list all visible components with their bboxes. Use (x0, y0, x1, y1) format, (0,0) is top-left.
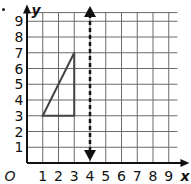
y-tick-label: 8 (15, 29, 24, 45)
x-axis-label: x (179, 168, 190, 184)
y-tick-label: 9 (15, 13, 24, 29)
y-tick-label: 2 (15, 124, 24, 140)
y-tick-label: 6 (15, 61, 24, 77)
y-tick-label: 7 (15, 45, 24, 61)
x-tick-label: 5 (101, 168, 110, 184)
y-axis-arrow-icon (23, 5, 31, 14)
x-tick-label: 8 (149, 168, 158, 184)
grid-lines (27, 13, 177, 163)
origin-label: O (4, 168, 15, 184)
y-axis-label: y (31, 2, 41, 18)
x-tick-label: 7 (133, 168, 142, 184)
x-tick-label: 6 (117, 168, 126, 184)
shapes (43, 6, 96, 161)
y-tick-label: 3 (15, 108, 24, 124)
arrow-up-icon (84, 6, 96, 17)
arrow-down-icon (84, 150, 96, 161)
x-tick-label: 4 (86, 168, 95, 184)
x-tick-label: 9 (164, 168, 173, 184)
coordinate-grid: 123456789123456789Oxy (0, 0, 191, 184)
tick-labels: 123456789123456789Oxy (4, 2, 190, 184)
x-tick-label: 2 (54, 168, 63, 184)
y-tick-label: 1 (15, 139, 24, 155)
y-tick-label: 5 (15, 76, 24, 92)
x-tick-label: 3 (70, 168, 79, 184)
y-tick-label: 4 (15, 92, 24, 108)
x-tick-label: 1 (38, 168, 47, 184)
x-axis-arrow-icon (180, 159, 189, 167)
